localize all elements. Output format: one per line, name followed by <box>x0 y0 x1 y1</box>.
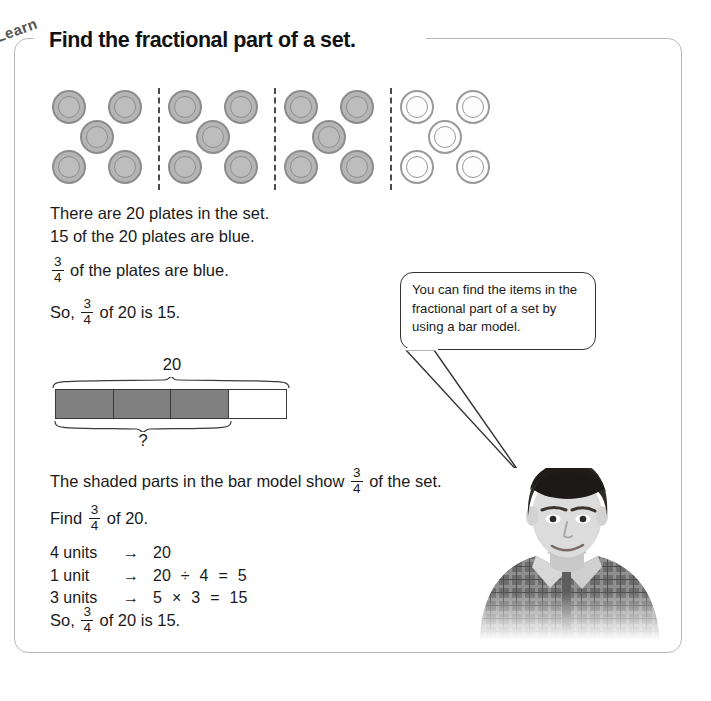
bar-unit-shaded <box>56 390 114 418</box>
bar-unit-unshaded <box>229 390 287 418</box>
fraction-numerator: 3 <box>81 297 93 312</box>
plates-diagram <box>52 90 476 188</box>
plate-empty <box>456 150 490 184</box>
page-title: Find the fractional part of a set. <box>49 28 356 53</box>
fraction-three-quarters: 3 4 <box>351 466 363 496</box>
plate-group-1 <box>52 90 146 188</box>
equation-list: 4 units→20 1 unit→20÷4=5 3 units→5×3=15 <box>50 542 252 610</box>
fraction-numerator: 3 <box>351 466 363 481</box>
equation-token: 20 <box>153 565 171 588</box>
fraction-denominator: 4 <box>81 620 93 636</box>
fraction-three-quarters: 3 4 <box>81 297 93 327</box>
equation-token: 3 <box>191 587 200 610</box>
fraction-three-quarters: 3 4 <box>52 255 64 285</box>
statement-line-4: So, 3 4 of 20 is 15. <box>50 297 180 327</box>
bar-model-total-label: 20 <box>52 355 292 374</box>
plate <box>168 90 202 124</box>
plate <box>284 90 318 124</box>
plate <box>284 150 318 184</box>
plate-empty <box>400 150 434 184</box>
plate <box>80 120 114 154</box>
equation-rhs: 5×3=15 <box>148 589 252 606</box>
plate <box>52 150 86 184</box>
bar-model-top-brace <box>52 377 290 389</box>
speech-bubble-tail <box>404 348 534 478</box>
fraction-three-quarters: 3 4 <box>81 605 93 635</box>
statement-line-3: 3 4 of the plates are blue. <box>50 255 229 285</box>
plate <box>340 150 374 184</box>
plate <box>196 120 230 154</box>
bar-model-unknown-label: ? <box>54 431 232 450</box>
fraction-numerator: 3 <box>89 503 101 518</box>
statement-line-4-suffix: of 20 is 15. <box>99 303 180 321</box>
group-divider <box>390 88 392 190</box>
plate-group-2 <box>168 90 262 188</box>
plate <box>108 90 142 124</box>
equation-units: 1 unit <box>50 565 114 588</box>
equation-rhs: 20 <box>148 544 176 561</box>
student-photo <box>470 468 674 640</box>
plate <box>224 90 258 124</box>
bar-model-bar <box>55 389 287 419</box>
statement-line-1: There are 20 plates in the set. <box>50 205 269 222</box>
plate-empty <box>428 120 462 154</box>
fraction-denominator: 4 <box>81 312 93 328</box>
plate <box>224 150 258 184</box>
plate <box>340 90 374 124</box>
final-statement: So, 3 4 of 20 is 15. <box>50 605 180 635</box>
plate-group-3 <box>284 90 378 188</box>
statement-line-2: 15 of the 20 plates are blue. <box>50 228 255 245</box>
group-divider <box>274 88 276 190</box>
arrow-icon: → <box>114 542 148 565</box>
equation-token: 4 <box>200 565 209 588</box>
statement-line-3-suffix: of the plates are blue. <box>70 261 229 279</box>
plate <box>168 150 202 184</box>
plate-group-4 <box>400 90 494 188</box>
plate-empty <box>456 90 490 124</box>
plate-empty <box>400 90 434 124</box>
fraction-three-quarters: 3 4 <box>89 503 101 533</box>
final-suffix: of 20 is 15. <box>99 611 180 629</box>
final-prefix: So, <box>50 611 75 629</box>
arrow-icon: → <box>114 565 148 588</box>
equation-rhs: 20÷4=5 <box>148 567 252 584</box>
fraction-denominator: 4 <box>351 481 363 497</box>
fraction-numerator: 3 <box>81 605 93 620</box>
plate <box>312 120 346 154</box>
equation-token: 20 <box>153 542 171 565</box>
statement-line-4-prefix: So, <box>50 303 75 321</box>
equation-row: 4 units→20 <box>50 542 252 565</box>
find-prefix: Find <box>50 509 82 527</box>
shaded-parts-suffix: of the set. <box>369 472 441 490</box>
equation-units: 4 units <box>50 542 114 565</box>
equals-icon: = <box>210 587 219 610</box>
shaded-parts-statement: The shaded parts in the bar model show 3… <box>50 466 442 496</box>
speech-bubble-text: You can find the items in the fractional… <box>412 282 577 334</box>
shaded-parts-prefix: The shaded parts in the bar model show <box>50 472 344 490</box>
bar-unit-shaded <box>114 390 172 418</box>
equals-icon: = <box>218 565 227 588</box>
speech-bubble: You can find the items in the fractional… <box>400 272 596 350</box>
find-statement: Find 3 4 of 20. <box>50 503 148 533</box>
fraction-denominator: 4 <box>89 518 101 534</box>
divide-icon: ÷ <box>181 565 190 588</box>
worksheet-page: Learn Find the fractional part of a set. <box>0 0 711 701</box>
plate <box>108 150 142 184</box>
equation-row: 1 unit→20÷4=5 <box>50 565 252 588</box>
equation-token: 5 <box>238 565 247 588</box>
group-divider <box>158 88 160 190</box>
find-suffix: of 20. <box>107 509 148 527</box>
plate <box>52 90 86 124</box>
fraction-numerator: 3 <box>52 255 64 270</box>
equation-token: 15 <box>230 587 248 610</box>
fraction-denominator: 4 <box>52 270 64 286</box>
bar-model: 20 ? <box>52 355 292 455</box>
bar-unit-shaded <box>171 390 229 418</box>
